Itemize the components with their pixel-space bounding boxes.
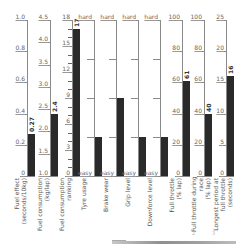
- axis-tick: [197, 51, 204, 52]
- axis-tick: [175, 82, 182, 83]
- axis-tick-label: 0: [158, 170, 180, 176]
- axis-tick: [43, 131, 50, 132]
- axis-tick: [219, 20, 226, 21]
- axis-tick-label: 3.0: [26, 81, 48, 87]
- axis-tick-label: 60: [180, 76, 202, 82]
- axis-tick: [65, 46, 72, 47]
- column-title: Brake wear: [102, 178, 109, 232]
- axis-tick: [109, 98, 116, 99]
- axis-tick-label: 20: [158, 139, 180, 145]
- axis-tick: [65, 124, 72, 125]
- axis-tick-label: hard: [114, 14, 136, 20]
- bar-value-label: 2.4: [51, 101, 58, 112]
- axis-minor-tick: [68, 63, 72, 64]
- axis-minor-tick: [68, 37, 72, 38]
- axis-tick-label: 0: [202, 170, 224, 176]
- horizontal-scrollbar[interactable]: [112, 241, 236, 244]
- column-title-line: Fuel consumption: [36, 178, 43, 232]
- axis-tick: [153, 20, 160, 21]
- axis-tick: [219, 82, 226, 83]
- bar: [227, 76, 234, 176]
- axis-tick: [131, 137, 138, 138]
- bar: [73, 29, 80, 176]
- axis-tick: [153, 176, 160, 177]
- axis-tick: [87, 20, 94, 21]
- axis-tick: [87, 137, 94, 138]
- bar: [183, 81, 190, 176]
- axis-tick-label: hard: [92, 14, 114, 20]
- column-title-line: (kg/lap): [43, 178, 50, 232]
- axis-tick: [131, 98, 138, 99]
- axis-tick-label: 5: [202, 139, 224, 145]
- axis-tick-label: 4.0: [26, 36, 48, 42]
- axis-tick: [175, 114, 182, 115]
- axis-tick: [153, 59, 160, 60]
- column-title-line: full throttle: [219, 178, 226, 232]
- column-title: Fuel consumption(kg/lap): [36, 178, 50, 232]
- axis-tick-label: easy: [92, 170, 114, 176]
- axis-tick-label: easy: [114, 170, 136, 176]
- column-title-line: Longest period at: [212, 178, 219, 232]
- axis-tick: [65, 72, 72, 73]
- bar: [205, 114, 212, 176]
- axis-tick-label: 20: [202, 45, 224, 51]
- axis-tick-label: 2.5: [26, 103, 48, 109]
- axis-tick-label: 80: [180, 45, 202, 51]
- axis-tick: [87, 59, 94, 60]
- axis-tick: [87, 176, 94, 177]
- axis-minor-tick: [68, 55, 72, 56]
- axis-tick: [175, 176, 182, 177]
- axis-tick: [109, 59, 116, 60]
- axis-tick-label: 80: [158, 45, 180, 51]
- axis-tick-label: hard: [70, 14, 92, 20]
- column-title-line: Brake wear: [102, 178, 109, 232]
- axis-minor-tick: [68, 133, 72, 134]
- axis-tick-label: 10: [202, 108, 224, 114]
- axis-minor-tick: [68, 81, 72, 82]
- axis-minor-tick: [68, 89, 72, 90]
- bar-value-label: 16: [227, 66, 234, 74]
- axis-tick: [109, 137, 116, 138]
- column-title-line: (seconds): [226, 178, 233, 232]
- axis-tick-label: 4.5: [26, 14, 48, 20]
- column-title-line: race: [197, 178, 204, 232]
- axis-tick: [197, 114, 204, 115]
- axis-tick: [65, 176, 72, 177]
- column-title-line: Full throttle during: [190, 178, 197, 232]
- column-title: Full throttle(% lap): [168, 178, 182, 232]
- axis-tick: [109, 176, 116, 177]
- axis-tick: [197, 176, 204, 177]
- axis-tick: [197, 20, 204, 21]
- axis-tick: [197, 82, 204, 83]
- axis-tick-label: 40: [158, 108, 180, 114]
- axis-minor-tick: [68, 141, 72, 142]
- axis-tick: [197, 145, 204, 146]
- column-title: Fuel consumptionranking: [58, 178, 72, 232]
- axis-tick-label: 20: [180, 139, 202, 145]
- chart-area: 00.20.40.60.81.00.27Fuel effect(seconds/…: [0, 0, 240, 248]
- gauge-column: 051015202516Longest period atfull thrott…: [0, 0, 22, 248]
- axis-tick: [219, 51, 226, 52]
- axis-tick-label: 2.0: [26, 125, 48, 131]
- axis-tick: [43, 20, 50, 21]
- axis-tick-label: 3: [48, 144, 70, 150]
- column-title: Longest period atfull throttle(seconds): [212, 178, 233, 232]
- axis-tick: [175, 145, 182, 146]
- axis-tick-label: 60: [158, 76, 180, 82]
- axis-tick: [131, 176, 138, 177]
- axis-tick: [175, 51, 182, 52]
- axis-tick: [109, 20, 116, 21]
- axis-minor-tick: [68, 167, 72, 168]
- column-title: Tyre usage: [80, 178, 87, 232]
- axis-tick-label: 1.0: [26, 170, 48, 176]
- axis-tick-label: 15: [48, 40, 70, 46]
- axis-tick: [153, 137, 160, 138]
- bar: [117, 98, 124, 176]
- axis-tick: [65, 98, 72, 99]
- axis-tick-label: 3.5: [26, 59, 48, 65]
- column-title-line: Full throttle: [168, 178, 175, 232]
- axis-tick-label: easy: [70, 170, 92, 176]
- column-title-line: ranking: [65, 178, 72, 232]
- axis-tick: [43, 154, 50, 155]
- axis-tick-label: 25: [202, 14, 224, 20]
